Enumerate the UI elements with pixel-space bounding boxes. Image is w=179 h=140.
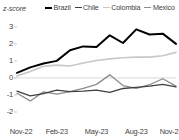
y-tick-label: -2 xyxy=(1,107,13,116)
y-tick-label: 3 xyxy=(1,22,13,31)
legend-item-colombia[interactable]: Colombia xyxy=(103,3,141,12)
y-tick-label: -1 xyxy=(1,90,13,99)
legend-label: Mexico xyxy=(153,3,175,12)
y-tick-label: 0 xyxy=(1,73,13,82)
x-tick-label: Feb-23 xyxy=(46,127,68,136)
y-tick-label: 2 xyxy=(1,39,13,48)
x-tick-label: Nov-22 xyxy=(10,127,33,136)
x-tick-label: Nov-23 xyxy=(160,127,179,136)
z-score-line-chart: z-score BrazilChileColombiaMexico 3210-1… xyxy=(0,0,179,140)
x-tick-label: Aug-23 xyxy=(125,127,148,136)
legend-item-mexico[interactable]: Mexico xyxy=(144,3,174,12)
legend-item-chile[interactable]: Chile xyxy=(75,3,99,12)
legend-swatch-chile xyxy=(75,7,82,8)
legend-label: Brazil xyxy=(54,3,71,12)
legend-swatch-brazil xyxy=(45,7,52,9)
x-axis-ticks: Nov-22Feb-23May-23Aug-23Nov-23 xyxy=(0,124,179,140)
series-line-brazil xyxy=(17,29,176,72)
plot-area: 3210-1-2 xyxy=(0,16,179,124)
legend-swatch-mexico xyxy=(144,7,151,8)
legend-item-brazil[interactable]: Brazil xyxy=(45,3,71,12)
y-axis-title: z-score xyxy=(3,4,26,13)
series-line-chile xyxy=(17,84,176,95)
chart-legend: BrazilChileColombiaMexico xyxy=(45,3,175,12)
y-tick-label: 1 xyxy=(1,56,13,65)
x-tick-label: May-23 xyxy=(85,127,108,136)
legend-label: Chile xyxy=(83,3,99,12)
legend-label: Colombia xyxy=(111,3,140,12)
series-canvas xyxy=(0,16,179,124)
series-line-mexico xyxy=(17,75,176,101)
legend-swatch-colombia xyxy=(103,7,110,8)
